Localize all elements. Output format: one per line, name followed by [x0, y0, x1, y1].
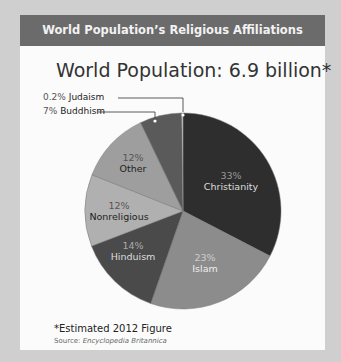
callout-buddhism: 7% Buddhism — [43, 106, 105, 116]
footnote: *Estimated 2012 Figure — [54, 323, 172, 334]
slice-label-hinduism: 14%Hinduism — [108, 240, 158, 262]
chart-title: World Population: 6.9 billion* — [56, 59, 331, 81]
callout-judaism: 0.2% Judaism — [43, 92, 104, 102]
slice-label-other: 12%Other — [108, 152, 158, 174]
slice-label-christianity: 33%Christianity — [201, 170, 261, 192]
slice-label-nonreligious: 12%Nonreligious — [84, 200, 154, 222]
header-title: World Population’s Religious Affiliation… — [20, 15, 325, 46]
slice-label-islam: 23%Islam — [180, 252, 230, 274]
source-line: Source: Encyclopedia Britannica — [54, 337, 167, 345]
